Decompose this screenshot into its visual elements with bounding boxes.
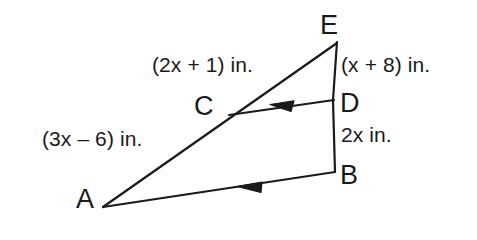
measure-label-segment-ed: (x + 8) in.: [341, 54, 430, 75]
vertex-label-C: C: [194, 93, 214, 120]
vertex-label-D: D: [340, 90, 360, 117]
vertex-label-B: B: [340, 162, 358, 189]
geometry-diagram: E C D B A (2x + 1) in. (x + 8) in. (3x –…: [0, 0, 477, 240]
vertex-label-E: E: [320, 12, 338, 39]
segment-AB: [103, 172, 335, 207]
parallel-arrow-cd-icon: [270, 101, 294, 112]
measure-label-segment-ec: (2x + 1) in.: [152, 54, 253, 75]
segment-ED: [333, 42, 337, 100]
measure-label-segment-db: 2x in.: [341, 124, 392, 145]
figure-canvas: [0, 0, 477, 240]
measure-label-segment-ca: (3x – 6) in.: [42, 128, 142, 149]
vertex-label-A: A: [76, 186, 94, 213]
segment-DB: [333, 100, 335, 172]
parallel-arrow-ab-icon: [237, 182, 262, 193]
